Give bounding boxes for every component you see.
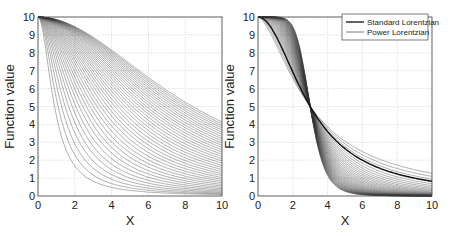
y-tick-label: 3 [29,136,35,148]
legend-entry: Power Lorentzian [367,28,429,37]
y-tick-label: 8 [249,47,255,59]
y-tick-label: 6 [249,83,255,95]
x-tick-label: 0 [35,199,41,211]
x-tick-label: 10 [426,199,438,211]
x-tick-label: 10 [216,199,228,211]
y-tick-label: 2 [29,154,35,166]
legend-entry: Standard Lorentzian [367,18,439,27]
legend: Standard LorentzianPower Lorentzian [342,14,439,40]
chart-panel-1: 0246810012345678910XFunction value [2,11,228,228]
standard-lorentzian-line [258,17,432,181]
y-tick-label: 4 [249,118,255,130]
curve-family [38,17,222,195]
y-tick-label: 5 [29,101,35,113]
y-tick-label: 8 [29,47,35,59]
chart-canvas: 0246810012345678910XFunction value024681… [0,0,450,236]
y-tick-label: 10 [243,11,255,23]
x-tick-label: 6 [145,199,151,211]
y-tick-label: 0 [249,190,255,202]
y-tick-label: 3 [249,136,255,148]
x-tick-label: 6 [359,199,365,211]
y-tick-label: 10 [23,11,35,23]
y-tick-label: 9 [249,29,255,41]
y-tick-label: 7 [249,65,255,77]
y-axis-label: Function value [222,64,237,149]
y-tick-label: 4 [29,118,35,130]
y-tick-label: 1 [249,172,255,184]
x-tick-label: 2 [290,199,296,211]
chart-panel-2: 0246810012345678910XFunction valueStanda… [222,11,439,228]
y-tick-label: 6 [29,83,35,95]
x-tick-label: 8 [182,199,188,211]
x-tick-label: 4 [325,199,331,211]
x-tick-label: 0 [255,199,261,211]
y-tick-label: 9 [29,29,35,41]
y-tick-label: 1 [29,172,35,184]
y-tick-label: 5 [249,101,255,113]
x-tick-label: 2 [72,199,78,211]
y-axis-label: Function value [2,64,17,149]
x-tick-label: 8 [394,199,400,211]
x-axis-label: X [341,213,350,228]
x-axis-label: X [126,213,135,228]
x-tick-label: 4 [109,199,115,211]
y-tick-label: 0 [29,190,35,202]
y-tick-label: 2 [249,154,255,166]
y-tick-label: 7 [29,65,35,77]
